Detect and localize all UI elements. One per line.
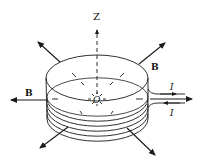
current-label-out: I bbox=[169, 108, 174, 118]
field-arrow-upper-left bbox=[38, 42, 60, 62]
origin-label: O bbox=[93, 95, 101, 105]
coil-diagram: Z O B B I I bbox=[0, 0, 200, 167]
current-label-in: I bbox=[169, 82, 174, 92]
field-label-upper-right: B bbox=[151, 62, 159, 72]
field-label-left: B bbox=[25, 88, 33, 98]
diagram-canvas: Z O B B I I bbox=[0, 0, 200, 167]
field-arrow-lower-right bbox=[127, 128, 155, 155]
z-axis-label: Z bbox=[93, 11, 100, 22]
radial-field-ticks bbox=[52, 73, 143, 114]
field-arrow-upper-right bbox=[139, 43, 165, 64]
